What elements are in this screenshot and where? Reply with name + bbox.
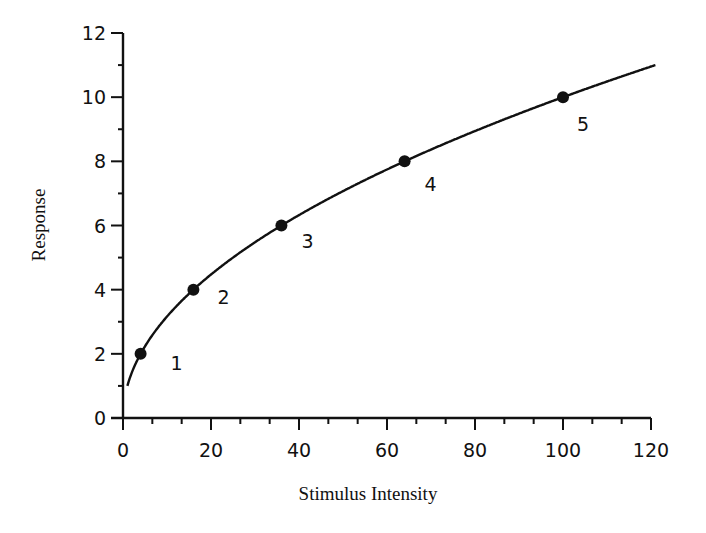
x-tick-label: 40: [287, 439, 311, 461]
chart: 024681012 020406080100120 12345 Stimulus…: [0, 0, 706, 533]
y-tick-label: 0: [94, 407, 106, 429]
data-point-label: 3: [301, 230, 313, 252]
x-tick-label: 100: [545, 439, 581, 461]
x-tick-label: 120: [633, 439, 669, 461]
x-tick-label: 0: [117, 439, 129, 461]
data-point-label: 1: [171, 352, 183, 374]
x-axis: 020406080100120: [111, 418, 669, 461]
y-axis-title: Response: [28, 189, 49, 262]
data-point: [135, 348, 147, 360]
y-tick-label: 12: [82, 22, 106, 44]
data-point: [557, 91, 569, 103]
data-point-label: 5: [577, 113, 589, 135]
x-tick-label: 80: [463, 439, 487, 461]
data-point-label: 2: [217, 286, 229, 308]
y-axis: 024681012: [82, 22, 123, 429]
y-tick-label: 8: [94, 150, 106, 172]
y-tick-label: 2: [94, 343, 106, 365]
data-point-label: 4: [425, 173, 437, 195]
y-tick-label: 6: [94, 215, 106, 237]
y-tick-label: 4: [94, 279, 106, 301]
data-points: 12345: [135, 91, 589, 374]
data-point: [399, 155, 411, 167]
y-tick-label: 10: [82, 86, 106, 108]
x-axis-title: Stimulus Intensity: [299, 483, 438, 504]
data-point: [275, 220, 287, 232]
x-tick-label: 20: [199, 439, 223, 461]
data-point: [187, 284, 199, 296]
x-tick-label: 60: [375, 439, 399, 461]
